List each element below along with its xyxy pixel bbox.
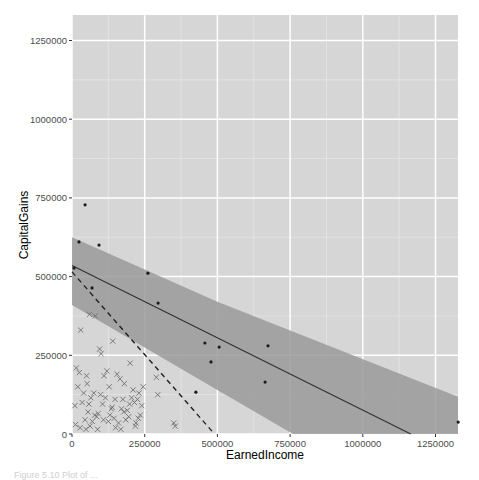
x-tick-label: 1000000 [344, 438, 381, 449]
x-axis-title: EarnedIncome [226, 448, 304, 462]
data-point [266, 344, 269, 347]
y-axis-title: CapitalGains [17, 191, 31, 260]
data-point [194, 391, 197, 394]
data-point [263, 380, 266, 383]
data-point [457, 420, 460, 423]
y-tick-label: 1000000 [30, 114, 67, 125]
data-point [203, 341, 206, 344]
figure-caption: Figure 5.10 Plot of ... [14, 470, 98, 480]
data-point [218, 346, 221, 349]
data-point [146, 272, 149, 275]
y-axis: 025000050000075000010000001250000 [30, 35, 72, 440]
y-tick-label: 250000 [35, 350, 67, 361]
x-tick-label: 250000 [129, 438, 161, 449]
y-tick-label: 500000 [35, 271, 67, 282]
data-point [156, 301, 159, 304]
x-tick-label: 0 [69, 438, 74, 449]
data-point [77, 240, 80, 243]
y-tick-label: 0 [62, 429, 67, 440]
data-point [97, 244, 100, 247]
data-point [83, 203, 86, 206]
data-point [72, 267, 75, 270]
y-tick-label: 750000 [35, 192, 67, 203]
y-tick-label: 1250000 [30, 35, 67, 46]
x-axis: 025000050000075000010000001250000 [69, 434, 454, 449]
x-tick-label: 1250000 [417, 438, 454, 449]
data-point [209, 360, 212, 363]
data-point [90, 286, 93, 289]
